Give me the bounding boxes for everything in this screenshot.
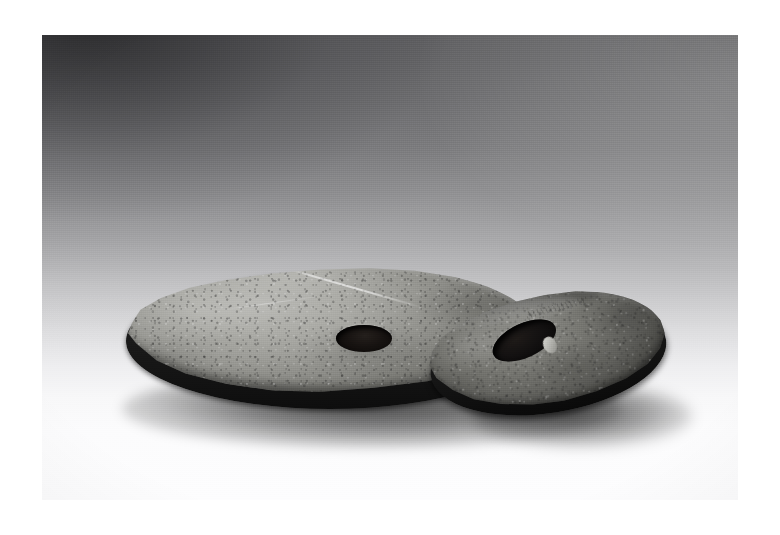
large-disc-secondary-scratch [223,295,329,311]
photograph-plate: Black and white photograph of two round … [42,35,738,500]
screenshot-canvas: Black and white photograph of two round … [0,0,780,535]
large-disc-incised-score-line [288,268,422,308]
object-group [42,35,738,500]
large-disc-central-perforation [336,325,392,352]
